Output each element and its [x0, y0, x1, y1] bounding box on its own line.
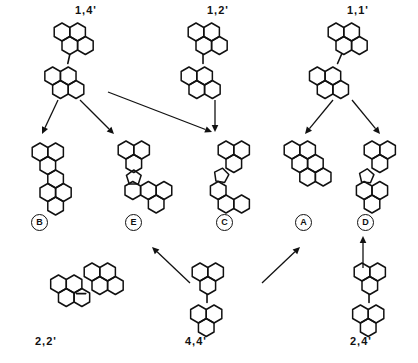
arrow-a-11-A: [305, 100, 333, 134]
product-label-a: A: [295, 214, 312, 231]
reactant-label-1-1: 1,1': [347, 4, 369, 16]
molecule-1-1prime: [310, 23, 368, 99]
arrow-a-12-C: [212, 100, 219, 132]
product-label-e: E: [125, 214, 142, 231]
molecule-1-4prime: [45, 23, 93, 99]
molecule-2-2prime: [51, 263, 123, 307]
product-label-d: D: [357, 214, 374, 231]
arrow-a-14-B: [42, 100, 58, 134]
molecule-product-d: [356, 141, 395, 213]
product-label-c: C: [216, 214, 233, 231]
arrow-a-44-E: [152, 247, 190, 283]
molecule-product-c: [210, 141, 249, 213]
molecule-product-a: [284, 141, 331, 186]
molecule-product-b: [32, 143, 71, 215]
molecule-1-2prime: [181, 23, 227, 99]
molecule-product-e: [118, 141, 172, 213]
arrow-a-14-E: [80, 100, 114, 134]
molecule-layer: [32, 23, 395, 337]
molecule-4-4prime: [191, 263, 224, 337]
reactant-label-2-2: 2,2': [35, 335, 57, 347]
arrow-a-11-D: [352, 100, 380, 134]
reactant-label-2-4: 2,4': [350, 335, 372, 347]
arrow-a-44-A: [262, 247, 300, 283]
reactant-label-4-4: 4,4': [185, 335, 207, 347]
reactant-label-1-4: 1,4': [75, 4, 97, 16]
product-label-b: B: [31, 214, 48, 231]
molecule-2-4prime: [353, 263, 386, 337]
reaction-scheme-canvas: [0, 0, 418, 363]
reactant-label-1-2: 1,2': [207, 4, 229, 16]
